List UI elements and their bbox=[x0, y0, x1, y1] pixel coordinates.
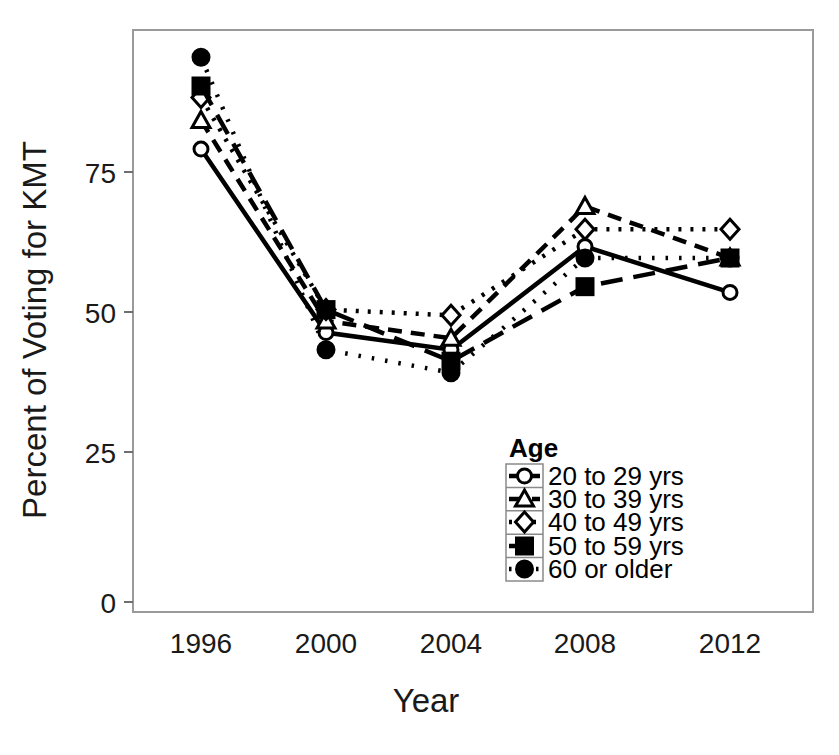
y-tick-label-75: 75 bbox=[85, 158, 116, 189]
x-tick-label-2012: 2012 bbox=[699, 628, 761, 659]
data-point bbox=[318, 342, 334, 358]
data-point bbox=[443, 365, 459, 381]
data-point bbox=[193, 78, 209, 94]
data-point bbox=[721, 219, 739, 239]
data-point bbox=[193, 49, 209, 65]
legend-key-marker-4 bbox=[517, 561, 533, 577]
plot-frame bbox=[133, 30, 813, 612]
y-tick-label-25: 25 bbox=[85, 438, 116, 469]
x-axis-title: Year bbox=[393, 682, 460, 719]
x-tick-label-2004: 2004 bbox=[420, 628, 482, 659]
data-point bbox=[192, 111, 210, 127]
x-tick-label-2000: 2000 bbox=[295, 628, 357, 659]
x-tick-label-1996: 1996 bbox=[170, 628, 232, 659]
data-point bbox=[723, 285, 737, 299]
data-point bbox=[194, 142, 208, 156]
series-0 bbox=[194, 142, 737, 357]
data-point bbox=[318, 302, 334, 318]
x-tick-label-2008: 2008 bbox=[554, 628, 616, 659]
y-tick-label-0: 0 bbox=[100, 588, 116, 619]
legend-key-marker-3 bbox=[517, 538, 533, 554]
legend-key-marker-0 bbox=[518, 469, 532, 483]
y-axis-title: Percent of Voting for KMT bbox=[16, 141, 53, 519]
series-2 bbox=[192, 87, 739, 325]
data-point bbox=[722, 250, 738, 266]
data-point bbox=[442, 305, 460, 325]
data-point bbox=[577, 250, 593, 266]
line-chart: 75 50 25 0 1996 2000 2004 2008 2012 Year… bbox=[0, 0, 839, 755]
legend-item-label-4[interactable]: 60 or older bbox=[548, 554, 673, 584]
legend-title: Age bbox=[509, 433, 558, 463]
data-point bbox=[576, 197, 594, 213]
y-tick-label-50: 50 bbox=[85, 298, 116, 329]
series-layer bbox=[192, 49, 739, 380]
data-point bbox=[576, 219, 594, 239]
y-axis-ticks bbox=[124, 172, 133, 602]
data-point bbox=[577, 279, 593, 295]
legend[interactable]: Age 20 to 29 yrs 30 to 39 yrs 40 to 49 y… bbox=[506, 433, 684, 584]
chart-container: 75 50 25 0 1996 2000 2004 2008 2012 Year… bbox=[0, 0, 839, 755]
